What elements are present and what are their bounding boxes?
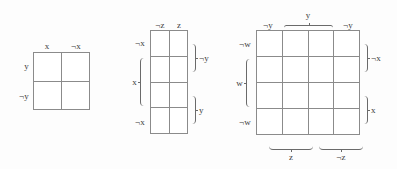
diagram-2-right-brace-y xyxy=(191,96,196,124)
diagram-1-top-label-x: x xyxy=(45,42,50,51)
diagram-1-grid xyxy=(33,52,90,110)
diagram-3-top-label-not-y-left: ¬y xyxy=(263,21,273,30)
diagram-3-bottom-brace-not-z xyxy=(319,145,363,150)
grid-cell xyxy=(334,109,360,135)
diagram-3-left-label-w: w xyxy=(236,79,243,88)
diagram-3-bottom-label-z: z xyxy=(289,153,293,162)
diagram-3-right-label-not-x: ¬x xyxy=(371,54,381,63)
grid-cell xyxy=(283,57,309,83)
diagram-1-left-label-not-y: ¬y xyxy=(19,92,29,101)
diagram-2-right-label-y: y xyxy=(199,106,204,115)
diagram-3-right-brace-not-x xyxy=(363,44,368,72)
diagram-3-left-brace-w xyxy=(246,59,251,107)
diagram-2-grid xyxy=(150,30,188,134)
diagram-2-left-label-not-x-bottom: ¬x xyxy=(135,118,145,127)
diagram-1-left-label-y: y xyxy=(24,62,29,71)
diagram-3-top-label-y: y xyxy=(306,11,311,20)
grid-cell xyxy=(334,83,360,109)
grid-cell xyxy=(151,108,170,134)
figure-canvas: x ¬x y ¬y ¬z z ¬x x ¬x ¬y y xyxy=(0,0,397,169)
grid-cell xyxy=(170,83,189,109)
diagram-3-right-label-x: x xyxy=(371,106,376,115)
diagram-2-left-label-x: x xyxy=(132,78,137,87)
diagram-3-top-label-not-y-right: ¬y xyxy=(343,21,353,30)
diagram-3-bottom-brace-z xyxy=(269,145,313,150)
grid-cell xyxy=(170,108,189,134)
grid-cell xyxy=(62,82,90,111)
diagram-3-left-label-not-w-bottom: ¬w xyxy=(239,118,251,127)
grid-cell xyxy=(257,31,283,57)
diagram-3-right-brace-x xyxy=(363,96,368,124)
grid-cell xyxy=(62,53,90,82)
grid-cell xyxy=(283,83,309,109)
diagram-2-right-brace-not-y xyxy=(191,44,196,72)
diagram-3-bottom-label-not-z: ¬z xyxy=(336,153,345,162)
grid-cell xyxy=(34,53,62,82)
diagram-2-top-label-not-z: ¬z xyxy=(155,21,164,30)
grid-cell xyxy=(257,83,283,109)
diagram-3-left-label-not-w-top: ¬w xyxy=(239,40,251,49)
diagram-3-top-brace-y xyxy=(284,25,333,30)
grid-cell xyxy=(257,57,283,83)
diagram-1-top-label-not-x: ¬x xyxy=(71,42,81,51)
diagram-2-left-brace-x xyxy=(140,58,145,106)
grid-cell xyxy=(334,31,360,57)
grid-cell xyxy=(151,57,170,83)
grid-cell xyxy=(283,109,309,135)
grid-cell xyxy=(257,109,283,135)
diagram-2-left-label-not-x-top: ¬x xyxy=(135,39,145,48)
grid-cell xyxy=(309,31,335,57)
grid-cell xyxy=(309,83,335,109)
diagram-3-grid xyxy=(256,30,360,135)
grid-cell xyxy=(170,57,189,83)
grid-cell xyxy=(170,31,189,57)
grid-cell xyxy=(309,109,335,135)
grid-cell xyxy=(334,57,360,83)
grid-cell xyxy=(309,57,335,83)
diagram-2-top-label-z: z xyxy=(177,21,181,30)
grid-cell xyxy=(151,31,170,57)
diagram-2-right-label-not-y: ¬y xyxy=(199,54,209,63)
grid-cell xyxy=(283,31,309,57)
grid-cell xyxy=(34,82,62,111)
grid-cell xyxy=(151,83,170,109)
